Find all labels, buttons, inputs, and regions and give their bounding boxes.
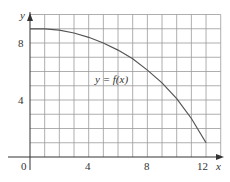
tick-origin: 0 bbox=[21, 160, 27, 172]
tick-x12: 12 bbox=[197, 160, 208, 172]
y-axis-label: y bbox=[19, 9, 25, 21]
tick-x4: 4 bbox=[85, 160, 91, 172]
x-axis-label: x bbox=[215, 160, 221, 172]
curve-label: y = f(x) bbox=[94, 73, 128, 86]
tick-y8: 8 bbox=[18, 37, 24, 49]
grid-lines bbox=[30, 15, 221, 158]
tick-y4: 4 bbox=[18, 94, 24, 106]
tick-x8: 8 bbox=[144, 160, 150, 172]
chart: y x 8 4 0 4 8 12 y = f(x) bbox=[0, 0, 230, 182]
